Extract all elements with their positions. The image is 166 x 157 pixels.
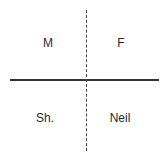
vertical-dashed-divider [86,10,87,151]
quadrant-label-bottom-left: Sh. [36,112,54,124]
quadrant-label-top-right: F [117,37,124,49]
quadrant-label-top-left: M [43,37,53,49]
quadrant-label-bottom-right: Neil [110,112,131,124]
horizontal-divider [10,79,159,81]
